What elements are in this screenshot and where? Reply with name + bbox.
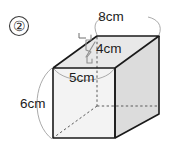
geometry-figure: ② 8cm 4cm 5cm 6cm (0, 0, 172, 148)
item-number: ② (13, 18, 26, 34)
leader-arc-width-right (148, 17, 160, 35)
label-width: 8cm (98, 9, 124, 24)
label-height: 6cm (20, 96, 46, 111)
prism-diagram: ② 8cm 4cm 5cm 6cm (0, 0, 172, 148)
right-angle-tick-icon (79, 33, 86, 38)
label-front-width: 5cm (69, 70, 95, 85)
label-depth: 4cm (96, 41, 122, 56)
